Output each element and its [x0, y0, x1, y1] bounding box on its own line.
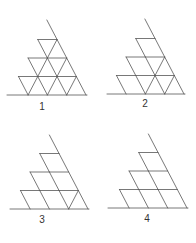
back-diagonal	[129, 171, 139, 190]
back-diagonal	[40, 191, 50, 210]
back-diagonal	[139, 153, 149, 172]
right-edge	[145, 19, 184, 94]
forward-diagonal	[67, 77, 77, 96]
figure-4-drawing	[108, 134, 188, 208]
back-diagonal	[119, 190, 129, 209]
forward-diagonal	[165, 76, 175, 95]
figure-2-label: 2	[139, 99, 151, 109]
forward-diagonal	[155, 57, 165, 76]
back-diagonal	[136, 39, 146, 58]
forward-diagonal	[28, 77, 38, 96]
right-edge	[47, 20, 86, 95]
figure-2-drawing	[107, 19, 185, 94]
forward-diagonal	[47, 77, 57, 96]
back-diagonal	[155, 76, 165, 95]
back-diagonal	[158, 190, 168, 209]
back-diagonal	[18, 77, 28, 96]
back-diagonal	[145, 57, 155, 76]
forward-diagonal	[57, 58, 67, 77]
forward-diagonal	[47, 40, 57, 59]
back-diagonal	[57, 77, 67, 96]
back-diagonal	[38, 40, 48, 59]
back-diagonal	[136, 76, 146, 95]
back-diagonal	[126, 57, 136, 76]
back-diagonal	[47, 58, 57, 77]
back-diagonal	[49, 172, 59, 191]
back-diagonal	[139, 190, 149, 209]
figure-1-label: 1	[36, 102, 48, 112]
forward-diagonal	[38, 58, 48, 77]
back-diagonal	[28, 58, 38, 77]
back-diagonal	[38, 77, 48, 96]
back-diagonal	[116, 76, 126, 95]
back-diagonal	[20, 191, 30, 210]
forward-diagonal	[69, 191, 79, 210]
back-diagonal	[40, 154, 50, 173]
back-diagonal	[148, 171, 158, 190]
triangle-grid-diagram	[0, 0, 196, 243]
forward-diagonal	[145, 76, 155, 95]
figure-3-drawing	[10, 135, 89, 209]
figure-1-drawing	[7, 20, 87, 95]
back-diagonal	[59, 191, 69, 210]
figure-4-label: 4	[141, 214, 153, 224]
figure-3-label: 3	[36, 215, 48, 225]
back-diagonal	[30, 172, 40, 191]
